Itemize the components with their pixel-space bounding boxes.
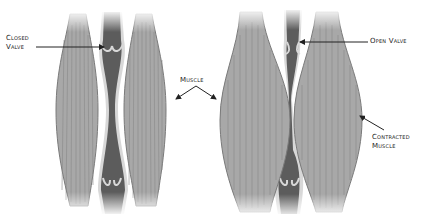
muscle-arrow-right bbox=[196, 86, 216, 99]
closed-valve-label: Closed Valve bbox=[6, 34, 29, 52]
open-valve-label-text: Open Valve bbox=[370, 37, 407, 46]
contracted-label-line1: Contracted bbox=[372, 133, 410, 142]
contracted-muscle-label: Contracted Muscle bbox=[372, 133, 410, 151]
closed-valve-label-line2: Valve bbox=[6, 43, 29, 52]
contracted-label-line2: Muscle bbox=[372, 142, 410, 151]
muscle-arrow-left bbox=[176, 86, 196, 99]
muscle-left-b bbox=[124, 14, 166, 206]
closed-valve-label-line1: Closed bbox=[6, 34, 29, 43]
contracted-muscle-arrow bbox=[360, 116, 384, 130]
muscle-pump-diagram bbox=[0, 0, 424, 224]
contracted-panel bbox=[215, 8, 365, 218]
muscle-left-a bbox=[56, 14, 98, 206]
vein-left bbox=[98, 12, 128, 214]
relaxed-panel bbox=[50, 10, 170, 216]
muscle-label-text: Muscle bbox=[180, 76, 204, 85]
open-valve-label: Open Valve bbox=[370, 37, 407, 46]
muscle-label: Muscle bbox=[180, 76, 204, 85]
